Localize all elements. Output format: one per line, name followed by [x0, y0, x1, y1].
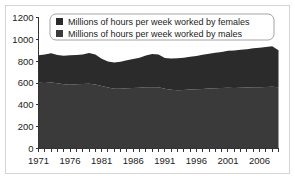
y-tick-label: 1000 [12, 34, 33, 45]
x-tick-label: 2006 [249, 155, 270, 166]
legend-label: Millions of hours per week worked by fem… [68, 17, 250, 27]
area-series-females [39, 46, 279, 90]
legend-swatch [56, 18, 63, 25]
x-tick-label: 1976 [60, 155, 81, 166]
y-tick-label: 800 [18, 56, 34, 67]
y-tick-label: 1200 [12, 12, 33, 23]
area-series-males [39, 83, 279, 149]
x-tick-label: 1981 [91, 155, 112, 166]
x-tick-label: 1971 [28, 155, 49, 166]
y-tick-label: 200 [18, 121, 34, 132]
chart-figure: 0200400600800100012001971197619811986199… [0, 0, 295, 179]
x-tick-label: 1996 [186, 155, 207, 166]
x-tick-label: 2001 [217, 155, 238, 166]
legend-label: Millions of hours per week worked by mal… [68, 29, 243, 39]
area-chart: 0200400600800100012001971197619811986199… [0, 0, 295, 179]
x-tick-label: 1991 [154, 155, 175, 166]
y-tick-label: 600 [18, 77, 34, 88]
legend-swatch [56, 30, 63, 37]
y-tick-label: 0 [28, 143, 33, 154]
y-tick-label: 400 [18, 99, 34, 110]
x-tick-label: 1986 [123, 155, 144, 166]
